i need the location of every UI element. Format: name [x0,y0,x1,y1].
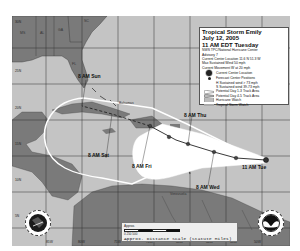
cone-white-icon [204,90,214,94]
hatch-icon [204,98,214,102]
place-ms: MS [20,31,25,35]
nws-emblem-icon [29,214,47,232]
place-bahamas: Bahamas [119,101,134,105]
place-venezuela: Venezuela [170,192,186,196]
large-dot-icon [206,70,212,76]
lat-tick: 30N [15,20,21,24]
day1-3-cone [133,124,266,179]
label-8am-sun: 8 AM Sun [78,73,101,79]
scale-approx-label: Approx. [124,224,135,228]
label-8am-sat: 8 AM Sat [88,152,109,158]
current-center-marker [264,158,269,163]
lon-tick: 75W [114,240,121,244]
distance-scale: Approx. 0 250 500 Approx. Distance Scale… [121,222,238,242]
lat-tick: 5N [15,214,19,218]
lat-tick: 25N [15,69,21,73]
gray-line-icon [204,103,214,107]
place-ga: GA [58,28,63,32]
label-8am-fri: 8 AM Fri [132,163,152,169]
lon-tick: 50W [254,240,261,244]
noaa-bird-icon [263,215,279,231]
cone-outline-icon [204,94,214,98]
lat-tick: 15N [15,142,21,146]
place-al: AL [40,31,44,35]
legend-panel: Tropical Storm Emily July 12, 2005 11 AM… [199,27,289,105]
scale-caption: Approx. Distance Scale (Statute Miles) [124,236,232,241]
place-sc: SC [84,19,89,23]
small-dot-icon [208,77,211,80]
legend-item: Tropical Storm Watch [202,103,286,107]
label-8am-thu: 8 AM Thu [184,112,206,118]
place-fl: FL [72,62,76,66]
label-8am-wed: 8 AM Wed [196,184,220,190]
nws-logo [25,210,51,236]
lat-tick: 10N [15,178,21,182]
lat-tick: 20N [15,106,21,110]
lon-tick: 85W [46,240,53,244]
label-11am-tue: 11 AM Tue [242,164,266,170]
noaa-logo [258,210,284,236]
lon-tick: 80W [78,240,85,244]
